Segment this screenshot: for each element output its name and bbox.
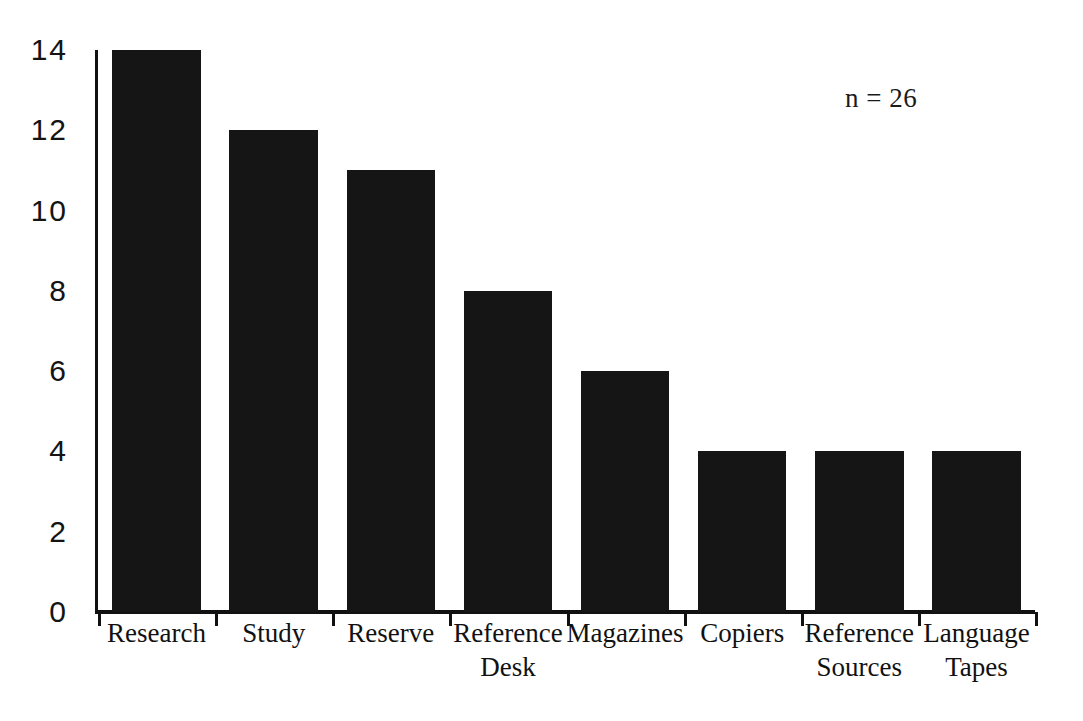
x-axis-tick [1035,612,1038,626]
y-axis-tick-label: 14 [31,35,68,65]
y-axis-tick-label: 2 [49,517,68,547]
bar [581,371,669,612]
y-axis-tick-label: 0 [49,597,68,627]
y-axis-tick-label: 4 [49,436,68,466]
x-axis-tick-labels: ResearchStudyReserveReference DeskMagazi… [98,616,1035,716]
bar [815,451,903,612]
x-axis-tick-label: Magazines [567,616,684,650]
x-axis-tick-label: Copiers [684,616,801,650]
bar-chart: n = 26 02468101214 ResearchStudyReserveR… [0,0,1083,721]
bar [347,170,435,612]
x-axis-tick-label: Research [98,616,215,650]
bar [698,451,786,612]
bar [229,130,317,612]
bar [932,451,1020,612]
x-axis-tick-label: Reference Desk [449,616,566,684]
x-axis-tick-label: Study [215,616,332,650]
x-axis-tick-label: Language Tapes [918,616,1035,684]
x-axis-tick-label: Reference Sources [801,616,918,684]
y-axis-tick-label: 6 [49,356,68,386]
y-axis-tick-labels: 02468101214 [0,0,88,721]
y-axis-tick-label: 10 [31,196,68,226]
y-axis-tick-label: 8 [49,276,68,306]
x-axis-tick-label: Reserve [332,616,449,650]
y-axis-tick-label: 12 [31,115,68,145]
plot-area [98,50,1035,612]
bar [112,50,200,612]
bar [464,291,552,612]
